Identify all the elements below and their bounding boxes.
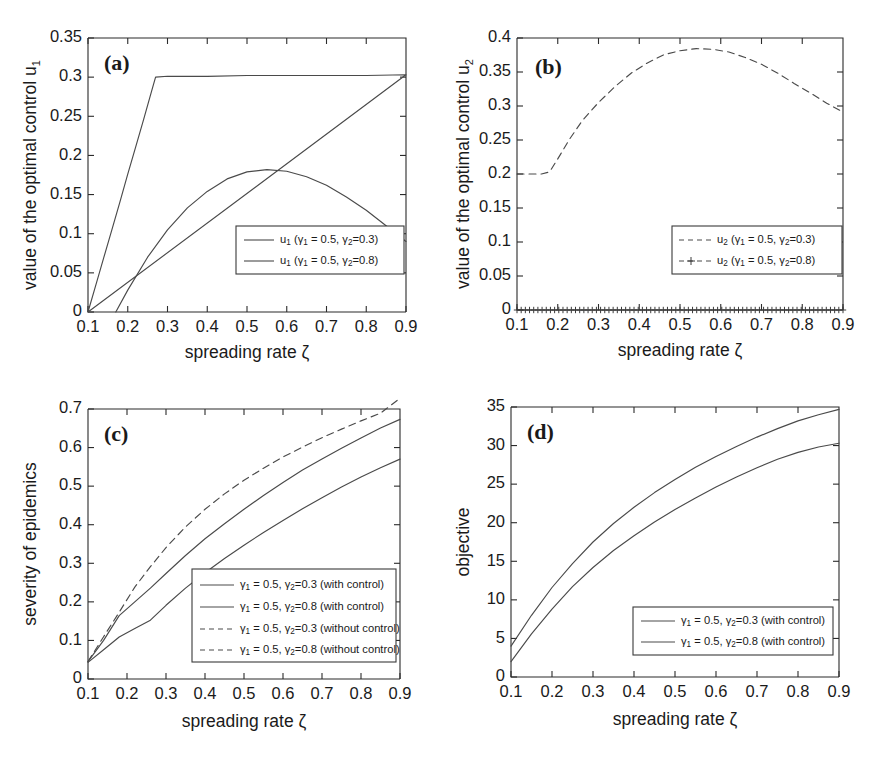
panel-d-xlabel: spreading rate ζ [613,709,738,729]
svg-text:0.2: 0.2 [488,163,511,181]
panel-b-xlabel: spreading rate ζ [618,340,743,360]
svg-text:0.2: 0.2 [541,682,564,700]
svg-text:0.7: 0.7 [59,398,82,416]
panel-d-ytick-labels: 0 5 10 15 20 25 30 35 [487,396,505,684]
svg-text:0.5: 0.5 [59,475,82,493]
panel-a-legend[interactable]: u1 (γ1 = 0.5, γ2=0.3) u1 (γ1 = 0.5, γ2=0… [236,226,404,274]
panel-b-plus-markers [514,307,846,313]
svg-text:0.1: 0.1 [77,684,100,702]
panel-b-legend[interactable]: u2 (γ1 = 0.5, γ2=0.3) u2 (γ1 = 0.5, γ2=0… [672,226,842,274]
svg-text:0.4: 0.4 [196,317,219,335]
svg-text:0.15: 0.15 [479,197,511,215]
svg-text:0.5: 0.5 [669,315,692,333]
panel-d-plot: 0 5 10 15 20 25 30 35 0.1 0.2 0.3 0.4 0.… [453,396,850,729]
svg-text:0.7: 0.7 [750,315,773,333]
svg-text:0.25: 0.25 [50,106,82,124]
panel-b-xtick-labels: 0.1 0.2 0.3 0.4 0.5 0.6 0.7 0.8 0.9 [506,315,855,333]
svg-text:0.1: 0.1 [77,317,100,335]
svg-text:0.9: 0.9 [395,317,418,335]
svg-text:0.4: 0.4 [194,684,217,702]
panel-a-xlabel: spreading rate ζ [185,342,310,362]
svg-text:15: 15 [487,551,505,569]
svg-text:0.1: 0.1 [488,231,511,249]
svg-text:0.3: 0.3 [488,95,511,113]
svg-text:20: 20 [487,512,505,530]
svg-text:0.7: 0.7 [746,682,769,700]
svg-text:35: 35 [487,396,505,414]
svg-text:0.1: 0.1 [59,630,82,648]
svg-text:5: 5 [496,628,505,646]
svg-text:0.6: 0.6 [705,682,728,700]
svg-text:0.1: 0.1 [506,315,529,333]
svg-text:0.2: 0.2 [116,317,139,335]
svg-text:0.3: 0.3 [155,684,178,702]
svg-text:0.8: 0.8 [791,315,814,333]
svg-text:0.1: 0.1 [500,682,523,700]
panel-c-legend[interactable]: γ1 = 0.5, γ2=0.3 (with control) γ1 = 0.5… [192,569,400,662]
panel-c-ytick-labels: 0 0.1 0.2 0.3 0.4 0.5 0.6 0.7 [59,398,82,686]
svg-text:0.35: 0.35 [50,27,82,45]
svg-text:0.3: 0.3 [59,66,82,84]
svg-text:0.5: 0.5 [664,682,687,700]
panel-d: 0 5 10 15 20 25 30 35 0.1 0.2 0.3 0.4 0.… [445,379,890,757]
panel-c-plot: 0 0.1 0.2 0.3 0.4 0.5 0.6 0.7 0.1 0.2 0.… [20,398,411,731]
panel-a-ylabel: value of the optimal control u1 [20,60,42,290]
svg-text:0.3: 0.3 [582,682,605,700]
svg-text:0.8: 0.8 [350,684,373,702]
svg-text:10: 10 [487,589,505,607]
svg-text:30: 30 [487,435,505,453]
svg-text:0.8: 0.8 [787,682,810,700]
panel-c-ylabel: severity of epidemics [20,462,40,626]
svg-text:0.6: 0.6 [272,684,295,702]
svg-text:0.6: 0.6 [709,315,732,333]
svg-text:0.3: 0.3 [587,315,610,333]
panel-d-legend[interactable]: γ1 = 0.5, γ2=0.3 (with control) γ1 = 0.5… [633,607,833,655]
panel-d-xtick-labels: 0.1 0.2 0.3 0.4 0.5 0.6 0.7 0.8 0.9 [500,682,851,700]
svg-text:0.2: 0.2 [59,145,82,163]
svg-text:25: 25 [487,473,505,491]
panel-c-tag: (c) [104,421,128,446]
panel-b-tag: (b) [535,54,562,79]
svg-text:0.9: 0.9 [828,682,851,700]
svg-text:0.4: 0.4 [488,27,511,45]
figure-canvas: 0 0.05 0.1 0.15 0.2 0.25 0.3 0.35 0.1 0.… [0,0,890,757]
svg-text:0.7: 0.7 [315,317,338,335]
panel-a-tag: (a) [104,50,130,75]
panel-a-ytick-labels: 0 0.05 0.1 0.15 0.2 0.25 0.3 0.35 [50,27,82,319]
svg-text:0.4: 0.4 [628,315,651,333]
panel-c: 0 0.1 0.2 0.3 0.4 0.5 0.6 0.7 0.1 0.2 0.… [0,379,445,757]
svg-text:0.25: 0.25 [479,129,511,147]
svg-text:0.2: 0.2 [116,684,139,702]
svg-text:0.4: 0.4 [623,682,646,700]
svg-text:0.3: 0.3 [156,317,179,335]
panel-b-curve-1 [517,49,843,174]
panel-c-xtick-labels: 0.1 0.2 0.3 0.4 0.5 0.6 0.7 0.8 0.9 [77,684,412,702]
svg-text:0.2: 0.2 [546,315,569,333]
svg-text:0.35: 0.35 [479,61,511,79]
panel-d-tag: (d) [527,419,554,444]
panel-b-ylabel: value of the optimal control u2 [453,59,475,289]
svg-text:0.4: 0.4 [59,514,82,532]
svg-text:0.9: 0.9 [389,684,412,702]
panel-b: 0 0.05 0.1 0.15 0.2 0.25 0.3 0.35 0.4 0.… [445,0,890,378]
panel-a-xtick-labels: 0.1 0.2 0.3 0.4 0.5 0.6 0.7 0.8 0.9 [77,317,418,335]
panel-d-ylabel: objective [453,507,473,576]
svg-text:0.5: 0.5 [236,317,259,335]
svg-text:0.9: 0.9 [832,315,855,333]
svg-text:0.6: 0.6 [59,437,82,455]
panel-b-plot: 0 0.05 0.1 0.15 0.2 0.25 0.3 0.35 0.4 0.… [453,27,854,360]
svg-text:0.2: 0.2 [59,591,82,609]
svg-text:0.1: 0.1 [59,223,82,241]
svg-text:0.3: 0.3 [59,553,82,571]
svg-text:0.05: 0.05 [50,262,82,280]
svg-text:0.6: 0.6 [275,317,298,335]
panel-c-xlabel: spreading rate ζ [182,711,307,731]
svg-text:0.7: 0.7 [311,684,334,702]
panel-b-ytick-labels: 0 0.05 0.1 0.15 0.2 0.25 0.3 0.35 0.4 [479,27,511,317]
svg-text:0.5: 0.5 [233,684,256,702]
panel-a: 0 0.05 0.1 0.15 0.2 0.25 0.3 0.35 0.1 0.… [0,0,445,378]
svg-text:0.8: 0.8 [355,317,378,335]
svg-text:0.05: 0.05 [479,265,511,283]
panel-a-plot: 0 0.05 0.1 0.15 0.2 0.25 0.3 0.35 0.1 0.… [20,27,417,362]
svg-text:0.15: 0.15 [50,184,82,202]
